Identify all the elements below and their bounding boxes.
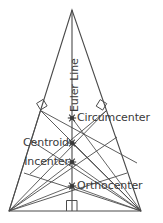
angle-bisector-from-bottom-right: [30, 140, 141, 211]
euler-line-label: Euler Line: [69, 58, 80, 112]
euler-line-diagram: Euler Line Circumcenter Centroid Incente…: [0, 0, 163, 223]
orthocenter-label: Orthocenter: [77, 180, 143, 191]
cevian-bl-to-incenter: [9, 162, 72, 211]
cevian-br-to-centroid: [72, 143, 141, 211]
cevian-br-to-circumcenter: [72, 118, 141, 211]
incenter-label: Incenter: [24, 156, 69, 167]
centroid-label: Centroid: [23, 137, 69, 148]
circumcenter-label: Circumcenter: [77, 112, 150, 123]
